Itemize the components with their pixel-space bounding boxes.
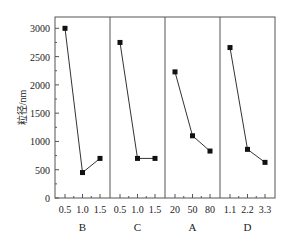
x-tick-label: 20 bbox=[170, 204, 180, 215]
x-tick-label: 1.1 bbox=[224, 204, 237, 215]
x-tick-label: 3.3 bbox=[259, 204, 272, 215]
y-tick-label: 3000 bbox=[30, 23, 50, 34]
y-tick-label: 2000 bbox=[30, 80, 50, 91]
x-tick-label: 0.5 bbox=[114, 204, 127, 215]
line-chart: 050010001500200025003000粒径/nm0.51.01.5B0… bbox=[0, 0, 293, 247]
x-tick-label: 80 bbox=[205, 204, 215, 215]
y-tick-label: 1000 bbox=[30, 136, 50, 147]
y-tick-label: 1500 bbox=[30, 108, 50, 119]
x-tick-label: 2.2 bbox=[241, 204, 254, 215]
data-marker bbox=[245, 147, 250, 152]
data-marker bbox=[228, 45, 233, 50]
y-tick-label: 2500 bbox=[30, 52, 50, 63]
data-line bbox=[120, 42, 155, 158]
data-line bbox=[230, 48, 265, 163]
x-tick-label: 1.5 bbox=[149, 204, 162, 215]
y-tick-label: 500 bbox=[35, 165, 50, 176]
x-tick-label: 1.0 bbox=[131, 204, 144, 215]
x-tick-label: 1.0 bbox=[76, 204, 89, 215]
chart-container: 050010001500200025003000粒径/nm0.51.01.5B0… bbox=[0, 0, 293, 247]
panel-label: C bbox=[134, 221, 141, 233]
panel-label: B bbox=[79, 221, 86, 233]
panel-label: A bbox=[189, 221, 197, 233]
y-tick-label: 0 bbox=[45, 193, 50, 204]
data-line bbox=[175, 72, 210, 151]
data-marker bbox=[98, 156, 103, 161]
data-marker bbox=[173, 69, 178, 74]
x-tick-label: 1.5 bbox=[94, 204, 107, 215]
data-marker bbox=[118, 40, 123, 45]
data-marker bbox=[80, 170, 85, 175]
data-marker bbox=[190, 133, 195, 138]
x-tick-label: 50 bbox=[188, 204, 198, 215]
data-line bbox=[65, 28, 100, 172]
data-marker bbox=[153, 156, 158, 161]
data-marker bbox=[263, 160, 268, 165]
panel-label: D bbox=[244, 221, 252, 233]
x-tick-label: 0.5 bbox=[59, 204, 72, 215]
data-marker bbox=[208, 149, 213, 154]
data-marker bbox=[135, 156, 140, 161]
y-axis-label: 粒径/nm bbox=[16, 90, 28, 126]
data-marker bbox=[63, 26, 68, 31]
